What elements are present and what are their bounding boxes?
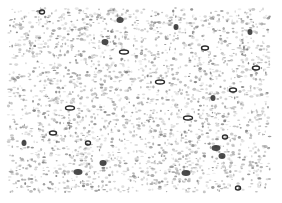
tissue-speck	[89, 171, 91, 172]
tissue-speck	[240, 103, 242, 106]
tissue-speck	[104, 119, 106, 122]
tissue-speck	[99, 104, 100, 106]
tissue-speck	[175, 38, 178, 39]
tissue-speck	[67, 15, 71, 16]
tissue-speck	[191, 167, 193, 169]
tissue-speck	[157, 51, 159, 52]
tissue-speck	[263, 69, 264, 71]
tissue-speck	[180, 28, 182, 29]
tissue-speck	[79, 146, 81, 147]
tissue-speck	[80, 160, 84, 162]
tissue-speck	[84, 189, 87, 190]
tissue-speck	[174, 52, 176, 53]
tissue-speck	[177, 161, 179, 163]
tissue-speck	[184, 65, 187, 67]
tissue-speck	[33, 45, 36, 47]
tissue-speck	[258, 161, 260, 163]
stained-cell	[248, 29, 253, 35]
tissue-speck	[86, 183, 90, 186]
tissue-speck	[38, 129, 42, 131]
tissue-speck	[63, 181, 65, 183]
tissue-speck	[251, 179, 253, 181]
tissue-speck	[259, 11, 260, 12]
tissue-speck	[238, 171, 241, 174]
tissue-speck	[268, 60, 269, 62]
tissue-speck	[132, 24, 134, 26]
tissue-speck	[127, 152, 129, 154]
tissue-speck	[246, 13, 248, 15]
tissue-speck	[180, 111, 181, 112]
tissue-speck	[22, 75, 26, 77]
tissue-speck	[49, 104, 51, 107]
tissue-speck	[148, 157, 151, 159]
tissue-speck	[213, 55, 217, 57]
tissue-speck	[241, 51, 245, 52]
tissue-speck	[173, 185, 176, 188]
tissue-speck	[71, 23, 75, 26]
tissue-speck	[198, 91, 201, 92]
tissue-speck	[124, 37, 126, 40]
tissue-speck	[187, 98, 190, 100]
tissue-speck	[256, 109, 258, 112]
tissue-speck	[55, 38, 58, 40]
tissue-speck	[74, 56, 76, 57]
tissue-speck	[100, 143, 103, 146]
tissue-speck	[39, 122, 42, 125]
tissue-speck	[167, 110, 169, 111]
tissue-speck	[10, 30, 12, 32]
tissue-speck	[108, 156, 110, 158]
tissue-speck	[98, 64, 101, 67]
tissue-speck	[61, 139, 63, 142]
tissue-speck	[233, 111, 237, 113]
tissue-speck	[143, 38, 146, 39]
tissue-speck	[175, 48, 177, 51]
tissue-speck	[99, 170, 101, 172]
tissue-speck	[110, 77, 113, 80]
tissue-speck	[93, 113, 95, 115]
tissue-speck	[221, 162, 223, 164]
tissue-speck	[157, 53, 160, 55]
tissue-speck	[242, 178, 245, 181]
tissue-speck	[266, 120, 268, 122]
tissue-speck	[239, 81, 242, 83]
tissue-speck	[98, 23, 101, 24]
tissue-speck	[11, 45, 13, 48]
tissue-speck	[38, 19, 40, 22]
tissue-speck	[183, 166, 186, 169]
tissue-speck	[69, 76, 72, 78]
tissue-speck	[35, 107, 39, 109]
tissue-speck	[148, 120, 150, 123]
tissue-speck	[147, 30, 149, 32]
tissue-speck	[190, 48, 192, 49]
tissue-speck	[250, 19, 253, 20]
tissue-speck	[192, 94, 193, 96]
tissue-speck	[143, 177, 145, 179]
tissue-speck	[160, 75, 163, 78]
tissue-speck	[203, 104, 204, 106]
tissue-speck	[203, 153, 206, 154]
tissue-speck	[86, 132, 89, 134]
tissue-speck	[253, 10, 255, 11]
tissue-speck	[111, 138, 114, 141]
tissue-speck	[17, 88, 19, 91]
tissue-speck	[86, 97, 89, 99]
tissue-speck	[165, 151, 168, 153]
tissue-speck	[255, 23, 256, 25]
tissue-speck	[46, 111, 50, 113]
tissue-speck	[255, 47, 258, 48]
tissue-speck	[139, 162, 141, 163]
tissue-speck	[27, 146, 30, 148]
tissue-speck	[9, 128, 13, 130]
tissue-speck	[58, 41, 60, 43]
tissue-speck	[160, 147, 163, 150]
tissue-speck	[181, 150, 184, 152]
tissue-speck	[151, 61, 154, 63]
tissue-speck	[194, 168, 198, 169]
tissue-speck	[250, 183, 253, 185]
tissue-speck	[64, 135, 66, 137]
tissue-speck	[100, 109, 103, 111]
tissue-speck	[265, 56, 268, 58]
tissue-speck	[54, 57, 55, 58]
tissue-speck	[248, 8, 252, 10]
tissue-speck	[248, 147, 249, 149]
